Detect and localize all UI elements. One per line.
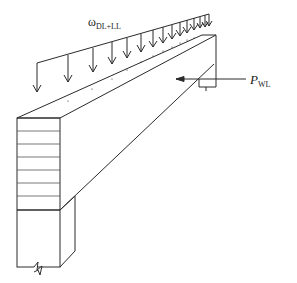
wind-load-arrow	[176, 77, 246, 82]
distributed-load-label: ωDL+LL	[88, 15, 121, 31]
column	[17, 118, 75, 267]
beam-bottom-edge	[60, 64, 214, 210]
beam-top-face	[17, 35, 216, 118]
break-symbol	[34, 262, 42, 275]
wind-load-label: PWL	[249, 72, 271, 89]
beam-diagram: ωDL+LL PWL	[0, 0, 297, 283]
column-course-lines	[17, 131, 60, 196]
beam-end-face	[199, 35, 216, 91]
distributed-load	[33, 14, 212, 92]
